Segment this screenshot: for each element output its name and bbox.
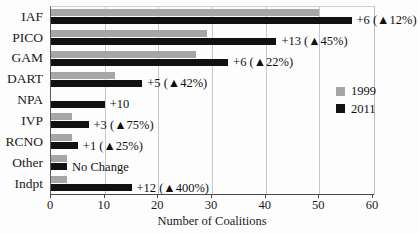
bar-1999: [51, 72, 115, 79]
legend-swatch-2011: [336, 104, 345, 113]
bar-annotation: No Change: [72, 160, 129, 173]
bar-1999: [51, 9, 319, 16]
bar-1999: [51, 176, 67, 183]
bar-row-2011: +10: [51, 101, 373, 108]
bar-row-2011: +6 (▲12%): [51, 17, 373, 24]
category-label: GAM: [0, 48, 47, 69]
x-axis-title: Number of Coalitions: [50, 215, 374, 228]
bar-2011: [51, 38, 276, 45]
category-label: RCNO: [0, 131, 47, 152]
bar-row-2011: +1 (▲25%): [51, 142, 373, 149]
bar-annotation: +6 (▲22%): [233, 56, 293, 69]
bar-annotation: +13 (▲45%): [281, 35, 347, 48]
bar-row-2011: +5 (▲42%): [51, 80, 373, 87]
bar-row-1999: [51, 51, 373, 58]
legend-item-2011: 2011: [336, 103, 376, 116]
bar-row-2011: +3 (▲75%): [51, 121, 373, 128]
x-tick-label: 40: [258, 199, 271, 212]
category-label: Other: [0, 152, 47, 173]
bar-2011: [51, 121, 89, 128]
bar-2011: [51, 59, 228, 66]
x-tick-label: 60: [366, 199, 379, 212]
bar-row-2011: +6 (▲22%): [51, 59, 373, 66]
bar-group: +5 (▲42%): [51, 69, 373, 90]
category-axis-labels: IAF PICO GAM DART NPA IVP RCNO Other Ind…: [0, 6, 47, 194]
bar-2011: [51, 101, 105, 108]
bar-annotation: +1 (▲25%): [83, 140, 143, 153]
bar-groups: +6 (▲12%)+13 (▲45%)+6 (▲22%)+5 (▲42%)+10…: [51, 6, 373, 194]
x-tick-label: 0: [47, 199, 53, 212]
bar-annotation: +5 (▲42%): [147, 77, 207, 90]
bar-2011: [51, 142, 78, 149]
bar-annotation: +10: [110, 98, 130, 111]
bar-group: +10: [51, 90, 373, 111]
bar-2011: [51, 80, 142, 87]
bar-chart: IAF PICO GAM DART NPA IVP RCNO Other Ind…: [0, 0, 419, 234]
legend-swatch-1999: [336, 87, 345, 96]
bar-group: +6 (▲12%): [51, 6, 373, 27]
bar-group: +13 (▲45%): [51, 27, 373, 48]
category-label: IAF: [0, 6, 47, 27]
bar-1999: [51, 155, 67, 162]
bar-group: +6 (▲22%): [51, 48, 373, 69]
bar-row-2011: No Change: [51, 163, 373, 170]
x-tick-label: 50: [312, 199, 325, 212]
bar-row-1999: [51, 176, 373, 183]
bar-2011: [51, 163, 67, 170]
category-label: IVP: [0, 110, 47, 131]
bar-annotation: +3 (▲75%): [94, 119, 154, 132]
bar-group: +1 (▲25%): [51, 131, 373, 152]
bar-group: +12 (▲400%): [51, 173, 373, 194]
category-label: PICO: [0, 27, 47, 48]
bar-row-2011: +13 (▲45%): [51, 38, 373, 45]
x-tick-label: 10: [97, 199, 110, 212]
x-tick-label: 20: [151, 199, 164, 212]
category-label: DART: [0, 69, 47, 90]
legend-label-1999: 1999: [351, 85, 376, 98]
bar-group: +3 (▲75%): [51, 110, 373, 131]
bar-row-1999: [51, 72, 373, 79]
bar-group: No Change: [51, 152, 373, 173]
bar-annotation: +12 (▲400%): [137, 181, 210, 194]
bar-1999: [51, 51, 196, 58]
bar-row-1999: [51, 93, 373, 100]
bar-1999: [51, 134, 72, 141]
x-axis-line: [50, 194, 374, 195]
bar-1999: [51, 30, 207, 37]
category-label: NPA: [0, 90, 47, 111]
x-tick-label: 30: [205, 199, 218, 212]
bar-row-2011: +12 (▲400%): [51, 184, 373, 191]
legend-item-1999: 1999: [336, 85, 376, 98]
bar-2011: [51, 184, 132, 191]
bar-2011: [51, 17, 352, 24]
bar-row-1999: [51, 9, 373, 16]
legend: 1999 2011: [336, 85, 376, 115]
legend-label-2011: 2011: [351, 103, 376, 116]
category-label: Indpt: [0, 173, 47, 194]
bar-annotation: +6 (▲12%): [357, 14, 417, 27]
bar-1999: [51, 113, 72, 120]
